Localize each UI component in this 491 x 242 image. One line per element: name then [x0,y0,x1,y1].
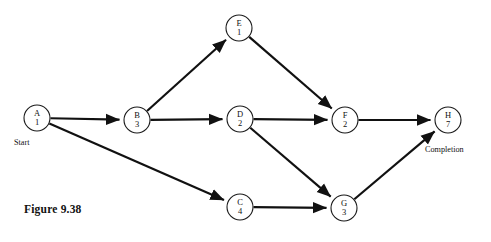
node-duration-g: 3 [342,207,346,217]
figure-container: A1B3E1D2C4F2G3H7 Start Completion Figure… [0,0,491,242]
edge-a-to-b [50,118,119,119]
node-a[interactable]: A1 [24,105,50,131]
node-duration-e: 1 [237,27,241,37]
node-duration-f: 2 [343,119,347,129]
edge-g-to-h [354,131,434,199]
node-b[interactable]: B3 [124,107,150,133]
completion-label: Completion [425,145,464,154]
node-duration-d: 2 [238,118,242,128]
edge-e-to-f [249,37,332,109]
edge-b-to-e [147,40,226,111]
node-duration-h: 7 [446,119,450,129]
edge-b-to-d [150,119,222,120]
node-d[interactable]: D2 [227,106,253,132]
edge-d-to-f [253,119,327,120]
node-duration-a: 1 [35,117,39,127]
edge-d-to-g [250,128,330,197]
node-f[interactable]: F2 [332,107,358,133]
node-e[interactable]: E1 [226,15,252,41]
node-g[interactable]: G3 [331,195,357,221]
node-duration-b: 3 [135,119,139,129]
node-c[interactable]: C4 [227,194,253,220]
edge-c-to-g [253,207,326,208]
edge-a-to-c [49,123,224,200]
node-h[interactable]: H7 [435,107,461,133]
start-label: Start [14,138,30,147]
figure-caption: Figure 9.38 [24,203,82,215]
